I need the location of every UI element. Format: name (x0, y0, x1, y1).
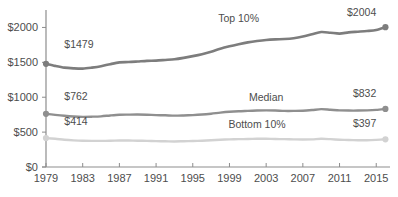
bottom-start-value: $414 (64, 115, 88, 127)
series-lines (46, 27, 385, 141)
x-tick-label: 1999 (217, 172, 241, 184)
x-tick-label: 1987 (107, 172, 131, 184)
x-axis-ticks: 1979198319871991199519992003200720112015 (34, 163, 389, 184)
x-tick-label: 2003 (254, 172, 278, 184)
median-end-value: $832 (353, 87, 377, 99)
median-start-value: $762 (64, 90, 88, 102)
bottom-end-value: $397 (353, 117, 377, 129)
top-series-inline-label: Top 10% (218, 12, 259, 24)
start-marker (43, 61, 49, 67)
y-tick-label: $2000 (7, 21, 38, 33)
end-marker (382, 24, 388, 30)
top-start-value: $1479 (64, 38, 93, 50)
x-tick-label: 2007 (291, 172, 315, 184)
series-endpoint-markers (43, 24, 389, 142)
top-end-value: $2004 (347, 6, 376, 18)
wage-trend-chart: $0$500$1000$1500$2000 197919831987199119… (0, 0, 398, 197)
series-line-median (46, 109, 385, 117)
chart-annotations: Top 10%MedianBottom 10%$1479$2004$762$83… (64, 6, 376, 130)
x-tick-label: 1991 (144, 172, 168, 184)
y-tick-label: $1500 (7, 56, 38, 68)
x-axis-group: 1979198319871991199519992003200720112015 (34, 163, 390, 184)
start-marker (43, 111, 49, 117)
bottom-series-inline-label: Bottom 10% (228, 118, 285, 130)
start-marker (43, 135, 49, 141)
x-tick-label: 2011 (328, 172, 352, 184)
series-line-bottom-10 (46, 138, 385, 141)
y-axis-group: $0$500$1000$1500$2000 (7, 10, 46, 173)
series-line-top-10 (46, 27, 385, 68)
end-marker (382, 106, 388, 112)
chart-canvas: $0$500$1000$1500$2000 197919831987199119… (0, 0, 398, 197)
x-tick-label: 2015 (364, 172, 388, 184)
x-tick-label: 1995 (181, 172, 205, 184)
x-tick-label: 1979 (34, 172, 58, 184)
median-series-inline-label: Median (249, 91, 284, 103)
y-tick-label: $1000 (7, 91, 38, 103)
y-tick-label: $500 (14, 126, 38, 138)
end-marker (382, 136, 388, 142)
y-axis-ticks: $0$500$1000$1500$2000 (7, 21, 46, 173)
x-tick-label: 1983 (70, 172, 94, 184)
